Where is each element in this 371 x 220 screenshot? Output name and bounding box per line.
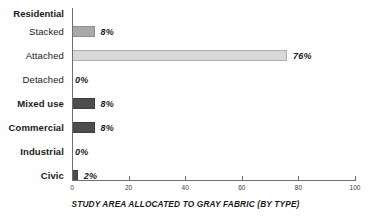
bar-row-industrial: Industrial 0% [0,141,371,162]
value-label-civic: 2% [84,171,97,181]
bar-mixed-use [72,98,95,109]
x-axis-tick-80 [298,176,299,181]
value-label-stacked: 8% [101,27,114,37]
bar-track-stacked: 8% [72,21,355,42]
category-label-mixed-use: Mixed use [0,98,64,109]
bar-track-civic: 2% [72,165,355,186]
x-axis-tick-40 [185,176,186,181]
category-label-stacked: Stacked [0,26,64,37]
bar-track-detached: 0% [72,69,355,90]
bar-commercial [72,122,95,133]
bar-track-industrial: 0% [72,141,355,162]
bar-track-commercial: 8% [72,117,355,138]
x-axis-tick-label-40: 40 [182,184,189,191]
bar-chart-figure: Residential Stacked 8% Attached 76% Deta… [0,0,371,220]
chart-caption: STUDY AREA ALLOCATED TO GRAY FABRIC (BY … [0,199,371,209]
x-axis-tick-label-20: 20 [125,184,132,191]
category-label-industrial: Industrial [0,146,64,157]
value-label-detached: 0% [75,75,88,85]
x-axis-tick-60 [242,176,243,181]
bar-track-mixed-use: 8% [72,93,355,114]
value-label-commercial: 8% [101,123,114,133]
bar-row-attached: Attached 76% [0,45,371,66]
x-axis-tick-100 [355,176,356,181]
plot-area: Residential Stacked 8% Attached 76% Deta… [0,8,371,180]
x-axis-tick-label-80: 80 [295,184,302,191]
x-axis-line [72,180,356,181]
bar-row-stacked: Stacked 8% [0,21,371,42]
x-axis-tick-label-100: 100 [350,184,361,191]
x-axis-tick-label-60: 60 [238,184,245,191]
bar-row-mixed-use: Mixed use 8% [0,93,371,114]
category-label-commercial: Commercial [0,122,64,133]
bar-row-commercial: Commercial 8% [0,117,371,138]
y-axis-line [72,8,73,180]
bar-row-detached: Detached 0% [0,69,371,90]
bar-track-attached: 76% [72,45,355,66]
category-group-heading-residential: Residential [0,8,64,19]
category-label-civic: Civic [0,170,64,181]
bar-attached [72,50,287,61]
category-label-detached: Detached [0,74,64,85]
category-label-attached: Attached [0,50,64,61]
value-label-mixed-use: 8% [101,99,114,109]
x-axis-tick-0 [72,176,73,181]
x-axis-tick-20 [129,176,130,181]
bar-stacked [72,26,95,37]
value-label-industrial: 0% [75,147,88,157]
value-label-attached: 76% [293,51,312,61]
x-axis-tick-label-0: 0 [70,184,74,191]
